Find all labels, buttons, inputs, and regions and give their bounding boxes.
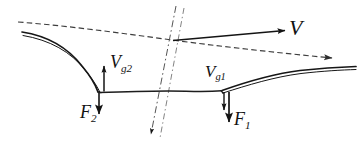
label-force-F2: F2 (80, 103, 96, 121)
blade-2-profile (22, 32, 101, 93)
label-velocity-Vg1: Vg1 (205, 63, 226, 80)
dash-dot-axis (151, 6, 184, 138)
label-velocity-V: V (289, 17, 302, 39)
blade-1-profile (221, 67, 356, 94)
subscript-2: 2 (91, 112, 96, 124)
diagram-canvas (0, 0, 362, 158)
label-velocity-Vg2: Vg2 (110, 53, 132, 71)
label-force-F1: F1 (234, 110, 250, 128)
blade-force-diagram: V Vg2 Vg1 F2 F1 (0, 0, 362, 158)
subscript-1: 1 (245, 119, 250, 131)
vector-V (173, 31, 285, 41)
subscript-g1: g1 (215, 71, 225, 82)
connecting-streamline (99, 91, 222, 93)
subscript-g2: g2 (121, 62, 132, 74)
